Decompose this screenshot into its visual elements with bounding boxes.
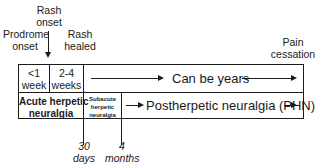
pain-cessation-label: Pain cessation bbox=[268, 36, 318, 60]
acute-line2: neuralgia bbox=[19, 108, 83, 120]
w24-line1: 2-4 bbox=[50, 67, 83, 79]
acute-line1: Acute herpetic bbox=[19, 96, 83, 108]
subacute-line2: herpetic bbox=[84, 103, 121, 111]
m30-line2: days bbox=[70, 152, 98, 164]
subacute-line1: Subacute bbox=[84, 95, 121, 103]
pain-line1: Pain bbox=[268, 36, 318, 48]
prodrome-line2: onset bbox=[3, 40, 47, 52]
rash-onset-line2: onset bbox=[32, 16, 66, 28]
prodrome-onset-label: Prodrome onset bbox=[3, 28, 47, 52]
arrow-right-icon bbox=[158, 75, 164, 81]
divider-4-months bbox=[121, 92, 122, 145]
row-divider bbox=[18, 92, 304, 93]
arrow-right-icon bbox=[291, 75, 297, 81]
arrow-right-icon bbox=[291, 102, 297, 108]
w24-line2: weeks bbox=[50, 79, 83, 91]
rash-healed-label: Rash healed bbox=[60, 28, 100, 52]
acute-herpetic-neuralgia-cell: Acute herpetic neuralgia bbox=[19, 96, 83, 120]
down-arrow-icon bbox=[45, 52, 51, 58]
subacute-herpetic-neuralgia-cell: Subacute herpetic neuralgia bbox=[84, 95, 121, 119]
can-be-years-label: Can be years bbox=[172, 71, 249, 86]
rash-onset-line1: Rash bbox=[32, 4, 66, 16]
2-4-weeks-cell: 2-4 weeks bbox=[50, 67, 83, 91]
arrow-right-icon bbox=[138, 102, 144, 108]
rash-onset-arrow-shaft bbox=[48, 31, 49, 53]
m30-line1: 30 bbox=[70, 140, 98, 152]
lt1-line2: week bbox=[19, 79, 49, 91]
4-months-marker: 4 months bbox=[105, 140, 139, 164]
prodrome-line1: Prodrome bbox=[3, 28, 47, 40]
lt1-line1: <1 bbox=[19, 67, 49, 79]
years-arrow-left-shaft bbox=[91, 78, 159, 79]
subacute-line3: neuralgia bbox=[84, 111, 121, 119]
m4-line1: 4 bbox=[105, 140, 139, 152]
pain-line2: cessation bbox=[268, 48, 318, 60]
rash-onset-label: Rash onset bbox=[32, 4, 66, 28]
rash-healed-line2: healed bbox=[60, 40, 100, 52]
years-arrow-right-shaft bbox=[242, 78, 292, 79]
lt1-week-cell: <1 week bbox=[19, 67, 49, 91]
30-days-marker: 30 days bbox=[70, 140, 98, 164]
m4-line2: months bbox=[105, 152, 139, 164]
rash-healed-line1: Rash bbox=[60, 28, 100, 40]
